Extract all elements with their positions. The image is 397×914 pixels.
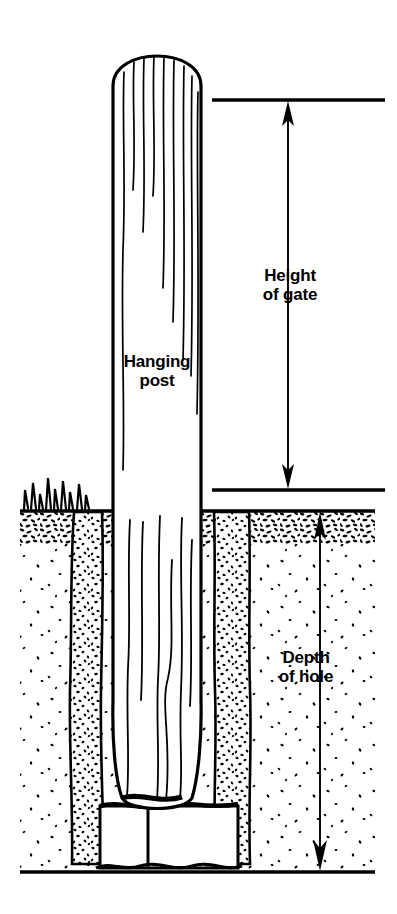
height-of-gate-label: Height of gate bbox=[234, 266, 346, 304]
hanging-post bbox=[113, 56, 201, 809]
hanging-post-label: Hanging post bbox=[99, 352, 215, 390]
grass-tuft-icon bbox=[24, 478, 89, 510]
depth-of-hole-label: Depth of hole bbox=[250, 648, 362, 686]
fence-post-diagram bbox=[0, 0, 397, 914]
illustration-canvas: Hanging post Height of gate Depth of hol… bbox=[0, 0, 397, 914]
stone-base bbox=[96, 803, 242, 868]
